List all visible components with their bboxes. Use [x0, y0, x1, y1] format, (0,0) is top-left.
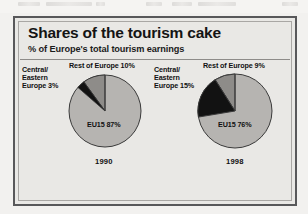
title-divider: [20, 59, 290, 60]
pie-1990-label-central-eastern: Central/ Eastern Europe 3%: [22, 66, 58, 91]
chart-figure-panel: Shares of the tourism cake % of Europe's…: [13, 16, 297, 206]
scan-header-noise: [0, 0, 308, 13]
pie-1998-label-central-eastern: Central/ Eastern Europe 15%: [154, 66, 194, 91]
pie-1998-label-rest-of-europe: Rest of Europe 9%: [203, 62, 265, 70]
pie-1998-svg: [197, 73, 273, 149]
pie-1990-svg: [68, 74, 142, 148]
chart-title: Shares of the tourism cake: [28, 24, 221, 42]
pie-chart-plot-area: Rest of Europe 10% Central/ Eastern Euro…: [15, 62, 295, 204]
pie-1990-year-label: 1990: [95, 157, 113, 166]
pie-1998-year-label: 1998: [226, 157, 244, 166]
pie-chart-1998: [197, 73, 273, 149]
pie-1998-label-eu15: EU15 76%: [218, 121, 252, 129]
pie-1990-label-eu15: EU15 87%: [87, 121, 121, 129]
pie-chart-1990: [68, 74, 142, 148]
chart-subtitle: % of Europe's total tourism earnings: [28, 44, 184, 54]
pie-1990-label-rest-of-europe: Rest of Europe 10%: [69, 62, 135, 70]
